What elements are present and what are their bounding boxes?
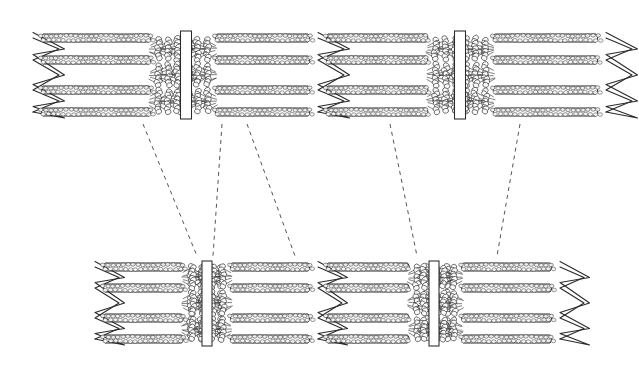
actin-monomer bbox=[280, 61, 285, 65]
actin-monomer bbox=[523, 39, 528, 43]
actin-monomer bbox=[464, 335, 469, 339]
actin-monomer bbox=[104, 34, 109, 38]
actin-monomer bbox=[291, 319, 296, 323]
actin-monomer bbox=[358, 314, 363, 318]
actin-monomer bbox=[263, 34, 268, 38]
actin-monomer bbox=[535, 108, 540, 112]
actin-monomer bbox=[238, 335, 243, 339]
actin-monomer bbox=[406, 60, 411, 64]
actin-monomer bbox=[108, 288, 113, 292]
actin-monomer bbox=[576, 34, 581, 38]
actin-monomer bbox=[253, 86, 258, 90]
actin-monomer bbox=[356, 39, 361, 43]
actin-monomer bbox=[414, 108, 419, 112]
actin-monomer bbox=[281, 339, 286, 343]
actin-monomer bbox=[305, 339, 310, 343]
actin-monomer bbox=[518, 113, 523, 117]
z-disc-stroke-a bbox=[606, 38, 632, 112]
actin-monomer bbox=[233, 284, 238, 288]
actin-monomer bbox=[111, 335, 116, 339]
actin-monomer bbox=[371, 288, 376, 292]
actin-monomer bbox=[353, 335, 358, 339]
actin-monomer bbox=[378, 314, 383, 318]
actin-monomer bbox=[486, 268, 491, 272]
lower-myofibril-row-sarcomere-lower-right-thick-filament-right-half bbox=[419, 288, 464, 317]
actin-monomer bbox=[138, 267, 143, 271]
actin-monomer bbox=[595, 56, 600, 60]
actin-monomer bbox=[333, 34, 338, 38]
actin-monomer bbox=[265, 38, 270, 42]
actin-monomer bbox=[334, 263, 339, 267]
actin-monomer bbox=[283, 263, 288, 267]
actin-monomer bbox=[534, 263, 539, 267]
actin-monomer bbox=[278, 56, 283, 60]
actin-monomer bbox=[161, 284, 166, 288]
actin-monomer bbox=[396, 61, 401, 65]
actin-monomer bbox=[393, 263, 398, 267]
actin-monomer bbox=[409, 108, 414, 112]
actin-monomer bbox=[591, 86, 596, 90]
actin-monomer bbox=[543, 112, 548, 116]
actin-monomer bbox=[305, 318, 310, 322]
actin-monomer bbox=[53, 86, 58, 90]
actin-monomer bbox=[346, 60, 351, 64]
actin-monomer bbox=[61, 38, 66, 42]
actin-monomer bbox=[101, 61, 106, 65]
actin-monomer bbox=[153, 339, 158, 343]
actin-monomer bbox=[248, 263, 253, 267]
actin-monomer bbox=[553, 91, 558, 95]
actin-monomer bbox=[396, 319, 401, 323]
actin-monomer bbox=[341, 38, 346, 42]
actin-monomer bbox=[529, 284, 534, 288]
actin-monomer bbox=[398, 335, 403, 339]
actin-monomer bbox=[245, 288, 250, 292]
actin-monomer bbox=[508, 38, 512, 42]
actin-monomer bbox=[396, 91, 401, 95]
actin-monomer bbox=[109, 34, 114, 38]
actin-monomer bbox=[307, 86, 312, 90]
actin-monomer bbox=[164, 268, 169, 272]
actin-monomer bbox=[134, 34, 139, 38]
actin-monomer bbox=[99, 34, 104, 38]
actin-monomer bbox=[243, 56, 248, 60]
actin-monomer bbox=[542, 318, 547, 322]
m-line-bar bbox=[455, 31, 466, 119]
actin-monomer bbox=[401, 38, 406, 42]
actin-monomer bbox=[273, 335, 278, 339]
actin-monomer bbox=[288, 284, 293, 288]
actin-monomer bbox=[403, 56, 408, 60]
actin-monomer bbox=[115, 335, 120, 339]
actin-monomer bbox=[331, 318, 336, 322]
actin-monomer bbox=[136, 61, 141, 65]
actin-monomer bbox=[310, 339, 315, 343]
actin-monomer bbox=[233, 108, 238, 112]
actin-monomer bbox=[250, 267, 255, 271]
actin-monomer bbox=[96, 38, 101, 42]
actin-monomer bbox=[293, 86, 298, 90]
actin-monomer bbox=[331, 38, 336, 42]
z-disc-stroke-a bbox=[560, 267, 584, 339]
actin-monomer bbox=[504, 112, 509, 116]
actin-monomer bbox=[78, 56, 83, 60]
actin-monomer bbox=[494, 335, 499, 339]
actin-monomer bbox=[151, 60, 156, 64]
actin-monomer bbox=[391, 340, 396, 344]
actin-monomer bbox=[255, 340, 260, 344]
actin-monomer bbox=[334, 284, 339, 288]
sarcomere-diagram bbox=[0, 0, 639, 374]
actin-monomer bbox=[526, 340, 531, 344]
actin-monomer bbox=[403, 263, 408, 267]
actin-monomer bbox=[295, 289, 300, 293]
actin-monomer bbox=[564, 91, 569, 95]
actin-monomer bbox=[281, 318, 286, 322]
actin-monomer bbox=[362, 38, 367, 42]
actin-monomer bbox=[394, 335, 399, 339]
actin-monomer bbox=[268, 56, 273, 60]
actin-monomer bbox=[346, 90, 351, 94]
actin-monomer bbox=[573, 38, 578, 42]
lower-myofibril-row-sarcomere-lower-left-thin-filament-left bbox=[101, 335, 189, 344]
lower-myofibril-row-sarcomere-lower-left-thin-filament-left bbox=[100, 263, 187, 272]
actin-monomer bbox=[593, 39, 598, 43]
actin-monomer bbox=[349, 335, 354, 339]
actin-monomer bbox=[387, 113, 392, 117]
